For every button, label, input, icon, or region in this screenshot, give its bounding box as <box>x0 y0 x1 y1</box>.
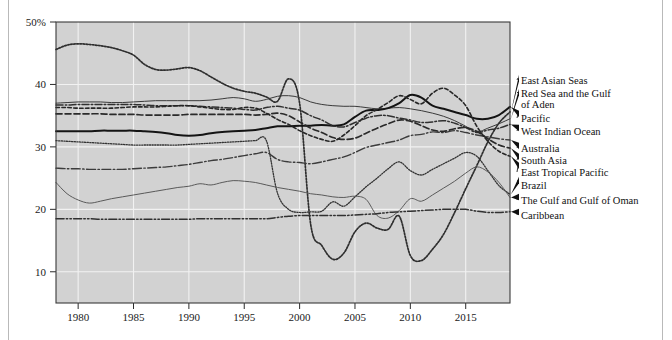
legend-label: East Tropical Pacific <box>521 167 609 178</box>
x-tick-label: 2000 <box>289 311 312 323</box>
legend-label: The Gulf and Gulf of Oman <box>521 195 639 206</box>
line-chart: 50%40302010 1980198519901995200020052010… <box>0 0 672 340</box>
legend-label: Brazil <box>521 180 547 191</box>
legend-label: South Asia <box>521 155 567 166</box>
x-tick-label: 1980 <box>67 311 90 323</box>
legend-label: of Aden <box>521 99 555 110</box>
legend-arrowhead <box>511 124 519 131</box>
legend-label: Caribbean <box>521 210 565 221</box>
plot-background <box>56 22 510 303</box>
x-tick-label: 2015 <box>455 311 478 323</box>
y-axis-tick-labels: 50%40302010 <box>26 16 47 278</box>
y-tick-label: 50% <box>26 16 46 28</box>
x-tick-label: 2005 <box>344 311 367 323</box>
y-tick-label: 30 <box>35 141 47 153</box>
legend-leader-lines <box>511 75 519 215</box>
chart-figure: 50%40302010 1980198519901995200020052010… <box>0 0 672 340</box>
legend-label: East Asian Seas <box>521 75 588 86</box>
legend-arrowhead <box>511 194 519 200</box>
y-tick-label: 40 <box>35 78 47 90</box>
x-tick-label: 1995 <box>233 311 256 323</box>
x-axis-tick-labels: 19801985199019952000200520102015 <box>67 311 477 323</box>
legend-label: Australia <box>521 143 560 154</box>
legend-label: Pacific <box>521 113 550 124</box>
legend-label: West Indian Ocean <box>521 126 601 137</box>
x-tick-label: 1985 <box>123 311 146 323</box>
legend-arrowhead <box>511 209 519 215</box>
legend-label: Red Sea and the Gulf <box>521 88 611 99</box>
x-tick-label: 2010 <box>399 311 422 323</box>
y-tick-label: 20 <box>35 203 47 215</box>
legend-leader <box>517 92 518 93</box>
legend-arrowhead <box>511 177 519 195</box>
legend-arrowhead <box>511 140 519 149</box>
legend-leader <box>517 78 518 80</box>
x-tick-label: 1990 <box>178 311 201 323</box>
y-tick-label: 10 <box>35 266 47 278</box>
legend: East Asian SeasRed Sea and the Gulfof Ad… <box>521 75 639 221</box>
